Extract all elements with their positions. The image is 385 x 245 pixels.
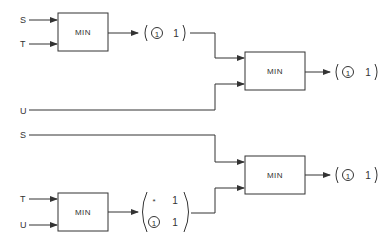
svg-text:1: 1 [365,170,371,181]
input-label-u: U [20,106,27,116]
svg-text:1: 1 [346,69,351,78]
min-box-2-label: MIN [267,67,283,76]
output-vector-4: 1 1 [336,167,377,183]
wire-v1-to-box2 [190,33,244,58]
output-vector-2: 1 1 [336,64,377,80]
bottom-min-stage: S T U MIN * 1 1 1 MIN 1 1 [20,130,377,232]
svg-text:1: 1 [155,30,160,39]
svg-text:1: 1 [172,217,178,228]
input-label-s: S [20,15,26,25]
input-label-s-bottom: S [20,130,26,140]
top-min-stage: S T MIN 1 1 U MIN 1 1 [20,13,377,116]
svg-text:1: 1 [152,219,157,228]
svg-text:1: 1 [172,195,178,206]
min-box-3-label: MIN [75,208,91,217]
input-label-t: T [20,39,26,49]
output-matrix-3: * 1 1 1 [143,192,189,232]
wire-u-to-box2 [29,84,244,110]
min-box-4-label: MIN [267,171,283,180]
svg-text:1: 1 [173,28,179,39]
min-block-diagram: S T MIN 1 1 U MIN 1 1 S [0,0,385,245]
svg-text:1: 1 [346,172,351,181]
min-box-1-label: MIN [75,28,91,37]
svg-text:1: 1 [365,67,371,78]
wire-v3-to-box4 [191,188,244,213]
asterisk-marker: * [152,197,155,206]
input-label-t-bottom: T [20,194,26,204]
input-label-u-bottom: U [20,220,27,230]
wire-s-to-box4 [29,135,244,162]
output-vector-1: 1 1 [145,25,185,41]
